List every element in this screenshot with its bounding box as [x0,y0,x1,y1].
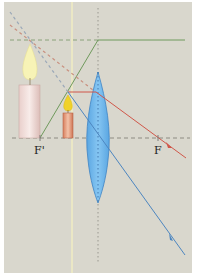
focal-right-label: F [154,144,162,157]
focal-left-label: F' [34,144,45,157]
image-candle-body [19,85,40,138]
lens-ray-diagram: F' F [0,0,198,280]
object-candle-body [63,113,73,138]
